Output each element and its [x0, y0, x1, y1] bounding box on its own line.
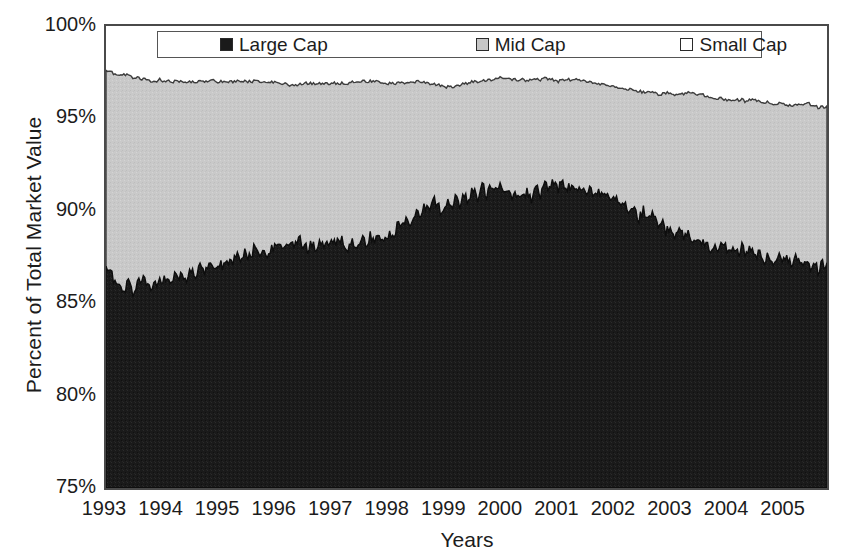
y-tick-label: 100%	[14, 13, 96, 36]
y-axis-tick-labels: 75%80%85%90%95%100%	[8, 0, 96, 559]
plot-area	[104, 24, 829, 490]
x-tick-label: 1996	[251, 497, 296, 520]
x-tick-label: 1999	[421, 497, 466, 520]
market-cap-area-chart: Percent of Total Market Value 75%80%85%9…	[0, 0, 853, 559]
x-tick-label: 2004	[704, 497, 749, 520]
x-tick-label: 2003	[647, 497, 692, 520]
y-tick-label: 80%	[14, 382, 96, 405]
x-tick-label: 2001	[534, 497, 579, 520]
legend-item-small-cap: Small Cap	[680, 34, 787, 56]
y-tick-label: 95%	[14, 105, 96, 128]
legend-label-small-cap: Small Cap	[699, 34, 787, 56]
chart-legend: Large Cap Mid Cap Small Cap	[157, 31, 762, 58]
x-tick-label: 1993	[82, 497, 127, 520]
y-tick-label: 75%	[14, 475, 96, 498]
y-tick-label: 90%	[14, 197, 96, 220]
y-tick-label: 85%	[14, 290, 96, 313]
legend-item-mid-cap: Mid Cap	[476, 34, 566, 56]
x-tick-label: 2000	[478, 497, 523, 520]
x-tick-label: 1997	[308, 497, 353, 520]
legend-item-large-cap: Large Cap	[220, 34, 328, 56]
legend-label-large-cap: Large Cap	[239, 34, 328, 56]
x-axis-title: Years	[104, 528, 830, 552]
gray-square-icon	[476, 38, 489, 51]
x-tick-label: 2005	[760, 497, 805, 520]
x-tick-label: 2002	[591, 497, 636, 520]
x-tick-label: 1994	[138, 497, 183, 520]
x-tick-label: 1995	[195, 497, 240, 520]
open-square-icon	[680, 38, 693, 51]
x-tick-label: 1998	[364, 497, 409, 520]
stacked-area-plot	[106, 26, 827, 488]
filled-square-icon	[220, 38, 233, 51]
legend-label-mid-cap: Mid Cap	[495, 34, 566, 56]
